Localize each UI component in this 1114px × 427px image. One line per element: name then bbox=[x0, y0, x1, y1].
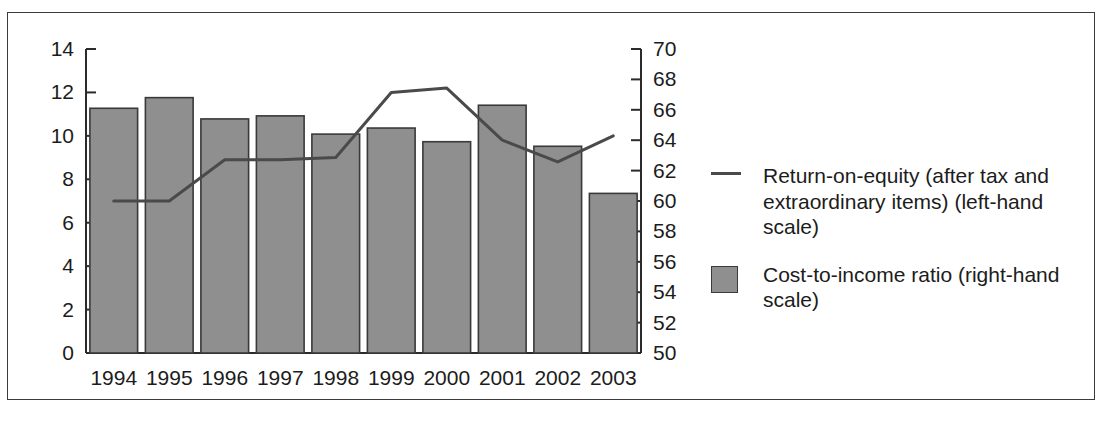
x-axis-tick-label-1998: 1998 bbox=[306, 367, 366, 388]
right-axis-tick-label: 62 bbox=[653, 160, 676, 181]
x-axis-tick-label-1994: 1994 bbox=[84, 367, 144, 388]
legend-item-cost-to-income: Cost-to-income ratio (right-hand scale) bbox=[711, 262, 1101, 313]
legend-label-cost-to-income: Cost-to-income ratio (right-hand scale) bbox=[763, 262, 1093, 313]
bar-1998 bbox=[312, 134, 360, 353]
x-axis-tick-label-2000: 2000 bbox=[417, 367, 477, 388]
right-axis-tick-label: 68 bbox=[653, 68, 676, 89]
bar-2002 bbox=[534, 146, 582, 353]
left-axis-tick-label: 2 bbox=[62, 299, 74, 320]
x-axis-tick-label-2001: 2001 bbox=[472, 367, 532, 388]
right-axis-tick-label: 60 bbox=[653, 190, 676, 211]
right-axis-tick-label: 58 bbox=[653, 220, 676, 241]
bar-2003 bbox=[589, 193, 637, 353]
right-axis-tick-label: 64 bbox=[653, 129, 676, 150]
line-swatch-icon bbox=[711, 172, 741, 175]
bar-2000 bbox=[423, 142, 471, 353]
left-axis-tick-label: 4 bbox=[62, 255, 74, 276]
x-axis-tick-label-2002: 2002 bbox=[528, 367, 588, 388]
left-axis-tick-label: 14 bbox=[51, 38, 74, 59]
legend-line-key bbox=[711, 163, 763, 175]
left-axis-tick-label: 12 bbox=[51, 81, 74, 102]
bar-2001 bbox=[478, 105, 526, 353]
bar-swatch-icon bbox=[711, 266, 738, 293]
right-axis-tick-label: 50 bbox=[653, 342, 676, 363]
bar-1997 bbox=[256, 116, 304, 353]
left-axis-tick-label: 10 bbox=[51, 125, 74, 146]
right-axis-tick-label: 54 bbox=[653, 281, 676, 302]
left-axis-tick-label: 8 bbox=[62, 168, 74, 189]
x-axis-tick-label-1996: 1996 bbox=[195, 367, 255, 388]
legend-label-return-on-equity: Return-on-equity (after tax and extraord… bbox=[763, 163, 1093, 240]
bar-1996 bbox=[201, 119, 249, 353]
x-axis-tick-label-1997: 1997 bbox=[250, 367, 310, 388]
left-axis-tick-label: 0 bbox=[62, 342, 74, 363]
chart-legend: Return-on-equity (after tax and extraord… bbox=[711, 163, 1101, 335]
right-axis-tick-label: 56 bbox=[653, 251, 676, 272]
right-axis-tick-label: 66 bbox=[653, 99, 676, 120]
x-axis-tick-label-1999: 1999 bbox=[361, 367, 421, 388]
x-axis-tick-label-1995: 1995 bbox=[139, 367, 199, 388]
right-axis-tick-label: 70 bbox=[653, 38, 676, 59]
legend-box-key bbox=[711, 262, 763, 293]
bar-1994 bbox=[90, 108, 138, 353]
chart-figure: 0246810121450525456586062646668701994199… bbox=[7, 12, 1095, 400]
bar-1995 bbox=[145, 98, 193, 353]
bar-1999 bbox=[367, 128, 415, 353]
right-axis-tick-label: 52 bbox=[653, 312, 676, 333]
left-axis-tick-label: 6 bbox=[62, 212, 74, 233]
legend-item-return-on-equity: Return-on-equity (after tax and extraord… bbox=[711, 163, 1101, 240]
x-axis-tick-label-2003: 2003 bbox=[583, 367, 643, 388]
